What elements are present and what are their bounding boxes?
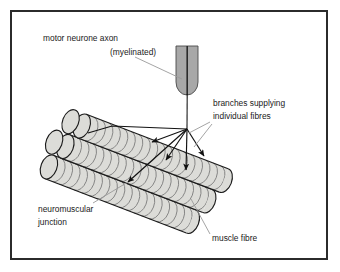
label-branches-supplying-line1: branches supplying — [213, 98, 286, 108]
leader-motor-neurone-axon — [135, 57, 182, 79]
leader-branches-b — [194, 124, 212, 147]
figure-container: motor neurone axon (myelinated) branches… — [0, 0, 340, 272]
motor-neurone-axon — [176, 46, 198, 129]
label-neuromuscular-junction-line1: neuromuscular — [38, 204, 94, 214]
label-muscle-fibre: muscle fibre — [212, 233, 257, 243]
neuromuscular-junction-diagram: motor neurone axon (myelinated) branches… — [0, 0, 340, 272]
branch-1 — [152, 129, 187, 142]
label-neuromuscular-junction-line2: junction — [37, 217, 67, 227]
leader-branches-a — [189, 122, 210, 133]
label-motor-neurone-axon-line1: motor neurone axon — [43, 33, 118, 43]
label-motor-neurone-axon-line2: (myelinated) — [110, 47, 156, 57]
label-branches-supplying-line2: individual fibres — [213, 111, 271, 121]
